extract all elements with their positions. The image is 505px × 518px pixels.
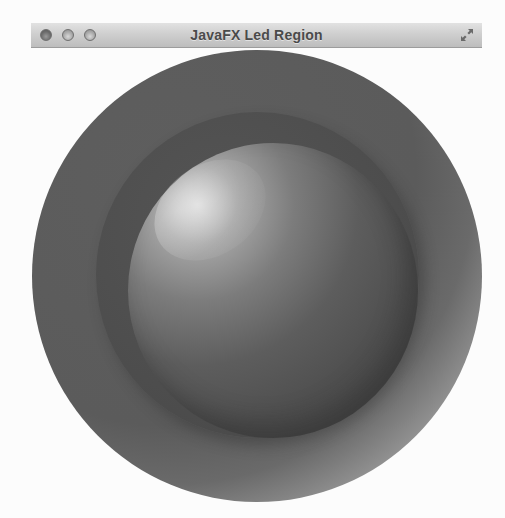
fullscreen-button[interactable] bbox=[460, 28, 474, 42]
screen: JavaFX Led Region bbox=[0, 0, 505, 518]
window-title: JavaFX Led Region bbox=[31, 27, 482, 43]
window-titlebar[interactable]: JavaFX Led Region bbox=[31, 23, 482, 48]
fullscreen-icon bbox=[460, 28, 474, 42]
